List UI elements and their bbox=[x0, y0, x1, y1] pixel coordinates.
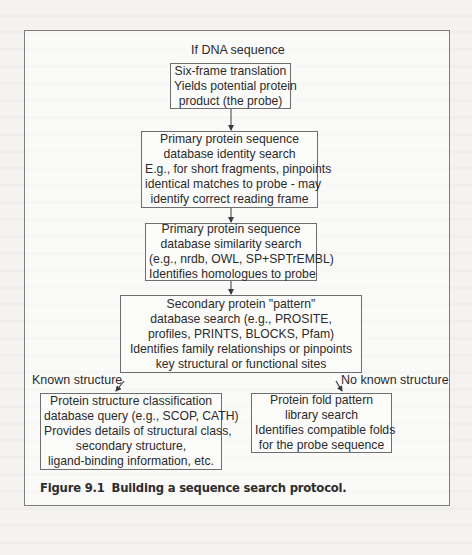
start-label: If DNA sequence bbox=[191, 43, 285, 58]
box-line: (e.g., nrdb, OWL, SP+SPTrEMBL) bbox=[149, 252, 313, 267]
box-line: Protein structure classification bbox=[44, 394, 218, 409]
figure-caption-text: Building a sequence search protocol. bbox=[112, 481, 347, 495]
box-line: profiles, PRINTS, BLOCKS, Pfam) bbox=[124, 327, 358, 342]
primary-identity-search-box: Primary protein sequence database identi… bbox=[141, 131, 318, 208]
box-line: database search (e.g., PROSITE, bbox=[124, 312, 358, 327]
box-line: ligand-binding information, etc. bbox=[44, 454, 218, 469]
no-known-structure-label: No known structure bbox=[341, 373, 449, 388]
box-line: E.g., for short fragments, pinpoints bbox=[145, 162, 314, 177]
secondary-pattern-search-box: Secondary protein "pattern" database sea… bbox=[120, 295, 362, 373]
box-line: Six-frame translation bbox=[174, 64, 287, 79]
box-line: key structural or functional sites bbox=[124, 357, 358, 372]
box-line: Identifies family relationships or pinpo… bbox=[124, 342, 358, 357]
box-line: secondary structure, bbox=[44, 439, 218, 454]
box-line: Protein fold pattern bbox=[255, 393, 388, 408]
box-line: Identifies homologues to probe bbox=[149, 267, 313, 282]
primary-similarity-search-box: Primary protein sequence database simila… bbox=[145, 223, 317, 281]
box-line: identical matches to probe - may bbox=[145, 177, 314, 192]
box-line: Provides details of structural class, bbox=[44, 424, 218, 439]
figure-number: Figure 9.1 bbox=[40, 481, 105, 495]
box-line: database similarity search bbox=[149, 237, 313, 252]
box-line: Identifies compatible folds bbox=[255, 423, 388, 438]
box-line: Yields potential protein bbox=[174, 79, 287, 94]
box-line: identify correct reading frame bbox=[145, 192, 314, 207]
six-frame-translation-box: Six-frame translation Yields potential p… bbox=[170, 63, 291, 109]
box-line: database query (e.g., SCOP, CATH) bbox=[44, 409, 218, 424]
box-line: database identity search bbox=[145, 147, 314, 162]
known-structure-label: Known structure bbox=[32, 373, 122, 388]
box-line: library search bbox=[255, 408, 388, 423]
fold-pattern-library-search-box: Protein fold pattern library search Iden… bbox=[251, 393, 392, 453]
box-line: Primary protein sequence bbox=[149, 222, 313, 237]
box-line: Primary protein sequence bbox=[145, 132, 314, 147]
box-line: for the probe sequence bbox=[255, 438, 388, 453]
box-line: Secondary protein "pattern" bbox=[124, 297, 358, 312]
structure-classification-query-box: Protein structure classification databas… bbox=[40, 393, 222, 470]
figure-caption: Figure 9.1Building a sequence search pro… bbox=[40, 481, 347, 495]
box-line: product (the probe) bbox=[174, 94, 287, 109]
